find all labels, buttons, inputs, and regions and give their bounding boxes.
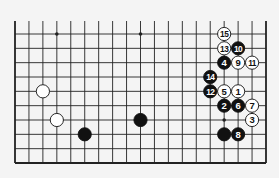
move-number-label: 6 <box>235 100 240 111</box>
stone-disc <box>50 113 63 126</box>
white-stone-7: 7 <box>245 99 258 112</box>
move-number-label: 10 <box>234 44 243 54</box>
white-stone <box>36 85 49 98</box>
stones: 123456789101112131415 <box>36 27 258 141</box>
stone-disc <box>218 128 231 141</box>
black-stone-4: 4 <box>218 56 231 69</box>
black-stone-12: 12 <box>204 85 217 98</box>
black-stone <box>78 128 91 141</box>
stone-disc <box>36 85 49 98</box>
move-number-label: 9 <box>235 57 240 68</box>
black-stone <box>134 113 147 126</box>
white-stone-11: 11 <box>245 56 258 69</box>
white-stone <box>50 113 63 126</box>
black-stone-2: 2 <box>218 99 231 112</box>
move-number-label: 4 <box>222 57 228 68</box>
black-stone-6: 6 <box>232 99 245 112</box>
white-stone-13: 13 <box>218 42 231 55</box>
move-number-label: 11 <box>248 58 257 68</box>
move-number-label: 1 <box>235 86 241 97</box>
move-number-label: 12 <box>206 87 215 97</box>
white-stone-9: 9 <box>232 56 245 69</box>
move-number-label: 15 <box>220 29 229 39</box>
move-number-label: 14 <box>206 72 215 82</box>
move-number-label: 7 <box>249 100 254 111</box>
move-number-label: 13 <box>220 44 229 54</box>
move-number-label: 5 <box>222 86 228 97</box>
black-stone <box>218 128 231 141</box>
go-board: 123456789101112131415 <box>0 0 279 178</box>
white-stone-1: 1 <box>232 85 245 98</box>
star-point <box>222 118 226 122</box>
white-stone-3: 3 <box>245 113 258 126</box>
star-point <box>55 32 59 36</box>
black-stone-8: 8 <box>232 128 245 141</box>
move-number-label: 8 <box>235 129 240 140</box>
move-number-label: 3 <box>249 114 254 125</box>
move-number-label: 2 <box>222 100 227 111</box>
stone-disc <box>78 128 91 141</box>
black-stone-10: 10 <box>232 42 245 55</box>
white-stone-15: 15 <box>218 27 231 40</box>
white-stone-5: 5 <box>218 85 231 98</box>
star-point <box>139 32 143 36</box>
black-stone-14: 14 <box>204 70 217 83</box>
stone-disc <box>134 113 147 126</box>
